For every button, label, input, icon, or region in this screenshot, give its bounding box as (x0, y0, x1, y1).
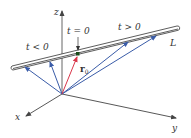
t-zero-label: t = 0 (67, 26, 90, 36)
t-negative-label: t < 0 (26, 42, 49, 52)
t-positive-label: t > 0 (118, 22, 141, 32)
x-axis-label: x (15, 112, 20, 122)
r0-point (76, 52, 80, 56)
z-axis-label: z (53, 7, 59, 17)
diagram-canvas: z x y L t < 0 t = 0 t > 0 r0 (0, 0, 191, 138)
line-L-label: L (169, 37, 176, 48)
x-axis (26, 94, 62, 116)
y-axis-label: y (171, 123, 178, 133)
r0-label: r0 (80, 64, 89, 75)
y-axis (62, 94, 176, 118)
